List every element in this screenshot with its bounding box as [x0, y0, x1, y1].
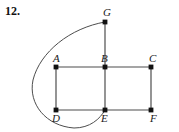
vertex-label-f: F	[149, 112, 157, 124]
vertex-label-c: C	[149, 52, 157, 64]
vertex-label-b: B	[101, 52, 108, 64]
vertices-group	[54, 20, 154, 113]
vertex-point-c	[149, 65, 154, 70]
curve-edge-g-e	[32, 22, 105, 128]
geometry-figure-svg: G A B C D E F	[0, 0, 179, 132]
vertex-label-e: E	[100, 112, 108, 124]
vertex-point-g	[103, 20, 108, 25]
vertex-label-d: D	[51, 112, 60, 124]
vertex-point-a	[54, 65, 59, 70]
vertex-label-a: A	[52, 52, 60, 64]
problem-figure-container: 12. G A	[0, 0, 179, 132]
vertex-label-g: G	[103, 6, 111, 18]
curved-edges-group	[32, 22, 105, 128]
vertex-point-b	[103, 65, 108, 70]
